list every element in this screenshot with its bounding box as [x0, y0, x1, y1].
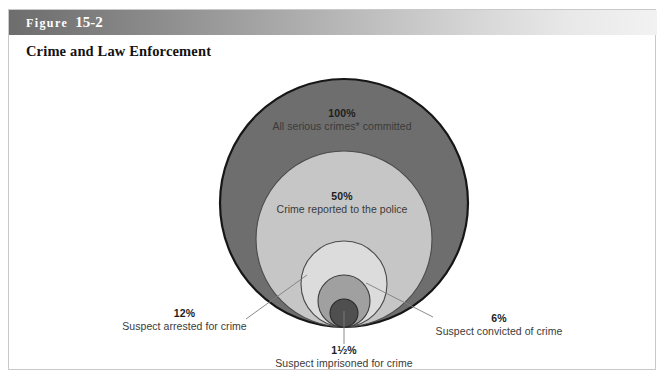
- label-50-percent: 50% Crime reported to the police: [217, 190, 467, 216]
- figure-banner: Figure15-2: [9, 10, 657, 35]
- label-1-5-percent-description: Suspect imprisoned for crime: [244, 357, 444, 370]
- label-12-percent: 12% Suspect arrested for crime: [97, 307, 272, 333]
- label-50-percent-description: Crime reported to the police: [217, 203, 467, 216]
- label-12-percent-value: 12%: [97, 307, 272, 320]
- label-6-percent-value: 6%: [409, 312, 589, 325]
- label-100-percent: 100% All serious crimes* committed: [207, 107, 477, 133]
- label-6-percent-description: Suspect convicted of crime: [409, 325, 589, 338]
- label-100-percent-description: All serious crimes* committed: [207, 120, 477, 133]
- fraction-one-and-half: 11⁄2%: [331, 344, 357, 357]
- label-1-5-percent-value: 11⁄2%: [244, 344, 444, 357]
- label-50-percent-value: 50%: [217, 190, 467, 203]
- figure-box: Figure15-2 Crime and Law Enforcement: [8, 9, 656, 370]
- label-100-percent-value: 100%: [207, 107, 477, 120]
- fraction-percent-sign: %: [347, 344, 357, 356]
- label-12-percent-description: Suspect arrested for crime: [97, 320, 272, 333]
- label-1-5-percent: 11⁄2% Suspect imprisoned for crime: [244, 344, 444, 370]
- figure-banner-label: Figure15-2: [26, 14, 103, 32]
- figure-banner-word: Figure: [26, 16, 68, 30]
- label-6-percent: 6% Suspect convicted of crime: [409, 312, 589, 338]
- figure-banner-number: 15-2: [75, 14, 103, 30]
- nested-circle-diagram: 100% All serious crimes* committed 50% C…: [9, 62, 657, 370]
- figure-subtitle: Crime and Law Enforcement: [26, 43, 211, 60]
- fraction-numerator: 1: [337, 345, 341, 352]
- figure-root: Figure15-2 Crime and Law Enforcement: [0, 0, 665, 380]
